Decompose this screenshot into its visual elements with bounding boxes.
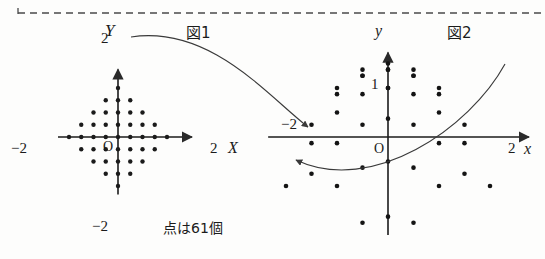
fig2-image-point [488, 184, 493, 189]
fig1-lattice-point [128, 147, 132, 151]
fig1-lattice-point [128, 110, 132, 114]
fig2-image-point [411, 220, 416, 225]
fig1-caption: 図1 [186, 26, 211, 41]
fig1-origin-label: O [103, 140, 113, 154]
fig2-caption: 図2 [447, 26, 472, 41]
fig2-image-point [360, 67, 365, 72]
fig1-lattice-point [153, 147, 157, 151]
fig2-image-point [360, 122, 365, 127]
fig2-image-point [411, 122, 416, 127]
fig2-image-point [411, 92, 416, 97]
fig1-lattice-point [91, 159, 95, 163]
fig2-image-point [309, 141, 314, 146]
fig2-image-point [309, 171, 314, 176]
fig1-lattice-point [116, 159, 120, 163]
fig2-image-point [462, 171, 467, 176]
fig2-image-point [386, 86, 391, 91]
fig1-lattice-point [116, 98, 120, 102]
fig1-lattice-point [104, 159, 108, 163]
fig1-lattice-point [128, 123, 132, 127]
fig1-lattice-point [104, 123, 108, 127]
fig2-origin-label: O [374, 142, 384, 156]
fig1-lattice-point [128, 159, 132, 163]
fig1-ytick-2-label: 2 [101, 31, 109, 46]
fig1-lattice-point [91, 123, 95, 127]
fig2-image-point [411, 73, 416, 78]
fig2-ytick-1-label: 1 [371, 77, 379, 92]
fig2-xtick-2-label: 2 [508, 141, 516, 156]
fig2-image-point [360, 73, 365, 78]
fig1-lattice-point [116, 110, 120, 114]
fig1-point-count-note: 点は61個 [163, 221, 223, 235]
fig1-lattice-point [91, 147, 95, 151]
fig2-image-point [411, 67, 416, 72]
fig1-lattice-point [140, 123, 144, 127]
fig1-lattice-point [116, 86, 120, 90]
fig2-image-point [437, 110, 442, 115]
fig1-lattice-point [140, 135, 144, 139]
fig1-lattice-point [67, 135, 71, 139]
fig1-lattice-point [116, 135, 120, 139]
fig1-lattice-point [116, 172, 120, 176]
fig2-image-point [462, 122, 467, 127]
fig1-lattice-point [104, 98, 108, 102]
fig1-lattice-point [153, 135, 157, 139]
fig2-image-point [437, 141, 442, 146]
fig2-image-point [309, 122, 314, 127]
fig2-image-point [386, 67, 391, 72]
fig2-x-axis-label: x [524, 141, 531, 157]
fig1-lattice-point [128, 98, 132, 102]
fig1-lattice-point [79, 135, 83, 139]
fig1-lattice-point [116, 147, 120, 151]
fig2-image-point [386, 116, 391, 121]
fig1-lattice-point [116, 184, 120, 188]
fig2-image-point [335, 86, 340, 91]
fig2-y-axis-label: y [375, 23, 382, 39]
fig2-image-point [437, 92, 442, 97]
fig2-image-point [386, 214, 391, 219]
fig2-xtick-neg2-label: −2 [281, 117, 297, 132]
fig2-image-point [335, 92, 340, 97]
fig2-image-point [437, 86, 442, 91]
fig1-lattice-point [128, 172, 132, 176]
fig2-image-point [411, 165, 416, 170]
figure-canvas: Y X O 2 −2 −2 2 図1 点は61個 y x O 1 −2 2 図2 [0, 0, 545, 259]
fig1-lattice-point [165, 135, 169, 139]
fig1-lattice-point [140, 110, 144, 114]
fig1-xtick-2-label: 2 [210, 141, 218, 156]
fig1-xtick-neg2-label: −2 [11, 141, 27, 156]
fig1-lattice-point [79, 147, 83, 151]
fig1-x-axis-label: X [228, 140, 238, 156]
fig2-image-point [360, 220, 365, 225]
fig2-image-point [284, 184, 289, 189]
fig1-lattice-point [153, 123, 157, 127]
fig2-image-point [335, 141, 340, 146]
fig1-lattice-point [128, 135, 132, 139]
fig2-image-point [360, 92, 365, 97]
fig1-lattice-point [104, 172, 108, 176]
fig1-lattice-point [140, 147, 144, 151]
fig1-lattice-point [79, 123, 83, 127]
fig1-lattice-point [91, 135, 95, 139]
fig1-lattice-point [91, 110, 95, 114]
arc-arrow-lower [296, 64, 505, 170]
fig2-image-point [335, 184, 340, 189]
fig2-image-point [462, 141, 467, 146]
fig2-image-point [335, 110, 340, 115]
fig1-lattice-point [116, 123, 120, 127]
arc-arrow-upper [131, 36, 308, 127]
fig2-image-point [386, 61, 391, 66]
fig1-ytick-neg2-label: −2 [92, 219, 108, 234]
fig1-lattice-point [104, 110, 108, 114]
fig2-image-point [437, 184, 442, 189]
fig1-lattice-point [140, 159, 144, 163]
